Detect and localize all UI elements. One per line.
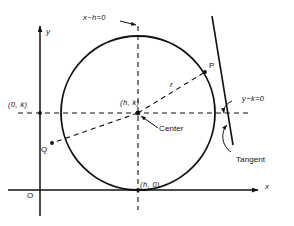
point-q-label: Q (41, 146, 47, 154)
center-label-leader (141, 116, 158, 128)
point-p-dot (203, 70, 207, 74)
radius-line-to-p (138, 72, 205, 113)
vertical-line-label: x−h=0 (83, 14, 106, 22)
circle-tangent-diagram: x−h=0 y−k=0 (0, k) (h, k) Center (h, 0) … (0, 0, 294, 226)
radius-line-to-q (52, 113, 138, 143)
point-q-dot (50, 141, 54, 145)
y-intercept-dot (38, 111, 42, 115)
construction-lines-group (18, 26, 248, 210)
center-callout-label: Center (159, 125, 184, 133)
axes-group (8, 26, 258, 216)
point-p-label: P (209, 62, 214, 70)
vertical-line-label-leader (120, 21, 136, 25)
y-intercept-label: (0, k) (8, 101, 27, 109)
y-axis-label: y (46, 28, 50, 36)
tangent-callout-label: Tangent (236, 156, 265, 164)
x-axis-label: x (265, 183, 269, 191)
tangent-line (212, 16, 233, 145)
diagram-canvas (0, 0, 294, 226)
origin-label: O (27, 192, 33, 200)
bottom-intercept-label: (h, 0) (140, 181, 160, 189)
horizontal-line-label: y−k=0 (242, 95, 264, 103)
center-coordinates-label: (h, k) (120, 99, 139, 107)
center-point-dot (136, 111, 141, 116)
radius-label: r (170, 81, 173, 89)
